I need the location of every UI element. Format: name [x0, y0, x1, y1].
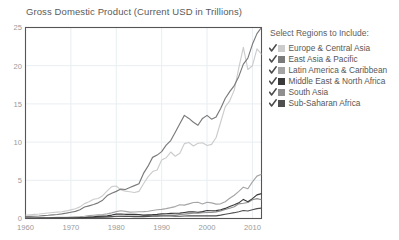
- y-tick-label: 25: [14, 23, 22, 32]
- legend-item-label: Europe & Central Asia: [289, 43, 371, 53]
- series-line-0: [26, 47, 262, 215]
- x-tick-label: 2000: [199, 223, 216, 232]
- legend-item-label: Middle East & North Africa: [289, 76, 386, 86]
- legend-title: Select Regions to Include:: [270, 28, 369, 38]
- legend-item-3[interactable]: Middle East & North Africa: [268, 76, 399, 86]
- series-line-1: [26, 28, 262, 217]
- legend-item-label: Latin America & Caribbean: [289, 65, 388, 75]
- chart-figure: 0510152025 196019701980199020002010: [0, 0, 268, 240]
- legend-color-swatch: [278, 56, 285, 63]
- y-axis-labels: 0510152025: [14, 23, 22, 223]
- legend-item-label: East Asia & Pacific: [289, 54, 358, 64]
- x-tick-label: 1960: [17, 223, 34, 232]
- x-axis-labels: 196019701980199020002010: [17, 223, 261, 232]
- grid-lines: [26, 28, 262, 219]
- check-icon[interactable]: [269, 88, 277, 97]
- legend-item-4[interactable]: South Asia: [268, 87, 399, 97]
- legend-color-swatch: [278, 100, 285, 107]
- legend-color-swatch: [278, 45, 285, 52]
- plot-frame: [26, 28, 262, 219]
- check-icon[interactable]: [269, 44, 277, 53]
- check-icon[interactable]: [269, 66, 277, 75]
- x-tick-label: 1990: [153, 223, 170, 232]
- legend-items-list: Europe & Central AsiaEast Asia & Pacific…: [268, 43, 399, 109]
- line-chart-plot: 0510152025 196019701980199020002010: [0, 0, 268, 240]
- check-icon[interactable]: [269, 77, 277, 86]
- legend-color-swatch: [278, 67, 285, 74]
- legend-item-5[interactable]: Sub-Saharan Africa: [268, 98, 399, 108]
- x-tick-label: 1970: [62, 223, 79, 232]
- check-icon[interactable]: [269, 99, 277, 108]
- legend-item-1[interactable]: East Asia & Pacific: [268, 54, 399, 64]
- legend-item-label: Sub-Saharan Africa: [289, 98, 361, 108]
- legend-color-swatch: [278, 78, 285, 85]
- y-tick-label: 20: [14, 62, 22, 71]
- check-icon[interactable]: [269, 55, 277, 64]
- legend-item-0[interactable]: Europe & Central Asia: [268, 43, 399, 53]
- data-series-group: [26, 28, 262, 219]
- x-tick-label: 2010: [244, 223, 261, 232]
- y-tick-label: 10: [14, 138, 22, 147]
- plot-border: [26, 28, 262, 219]
- legend-item-label: South Asia: [289, 87, 329, 97]
- legend-color-swatch: [278, 89, 285, 96]
- y-tick-label: 15: [14, 100, 22, 109]
- y-tick-label: 5: [18, 176, 22, 185]
- legend-item-2[interactable]: Latin America & Caribbean: [268, 65, 399, 75]
- x-tick-label: 1980: [108, 223, 125, 232]
- chart-page: Gross Domestic Product (Current USD in T…: [0, 0, 399, 240]
- legend-panel: Select Regions to Include: Europe & Cent…: [268, 0, 399, 240]
